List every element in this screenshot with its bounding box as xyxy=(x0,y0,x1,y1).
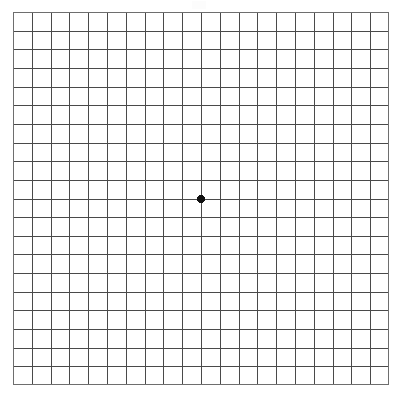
amsler-grid xyxy=(13,12,389,385)
amsler-grid-svg xyxy=(13,12,389,385)
fixation-dot xyxy=(197,195,205,203)
scan-artifact xyxy=(192,1,206,9)
amsler-grid-page xyxy=(0,0,398,399)
